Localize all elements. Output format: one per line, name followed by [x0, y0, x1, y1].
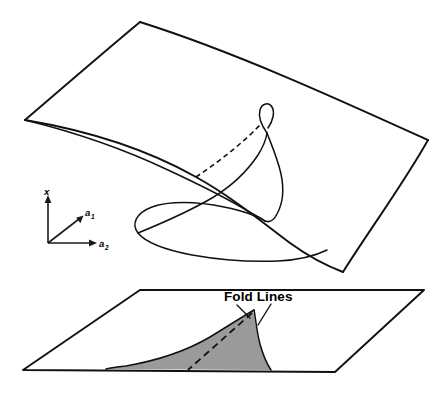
fold-lines-label: Fold Lines [224, 289, 293, 304]
axis-triad: x a 1 a 2 [43, 186, 109, 251]
axis-a1-label-group: a 1 [85, 207, 95, 220]
figure-canvas: x a 1 a 2 [0, 0, 446, 394]
control-plane-group: Fold Lines [23, 289, 424, 372]
axis-a1-line [48, 219, 79, 243]
axis-a2-subscript: 2 [104, 244, 109, 251]
axis-a2-label-group: a 2 [99, 238, 109, 251]
axis-a1-label: a [85, 207, 90, 218]
cusp-catastrophe-figure: x a 1 a 2 [0, 0, 446, 394]
axis-a2-label: a [99, 238, 104, 249]
axis-x-label: x [43, 186, 50, 197]
axis-a1-subscript: 1 [91, 213, 95, 220]
equilibrium-surface-group [25, 22, 428, 272]
axis-a2-arrowhead [89, 240, 97, 247]
